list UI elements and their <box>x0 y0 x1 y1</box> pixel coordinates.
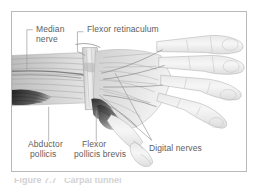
label-digital-nerves: Digital nerves <box>149 144 202 154</box>
label-abductor-pollicis-line2: pollicis <box>30 150 56 160</box>
label-flexor-pollicis-brevis-line2: pollicis brevis <box>74 150 126 160</box>
figure-root: Median nerve Flexor retinaculum Abductor… <box>0 0 258 188</box>
figure-caption-strip: Figure 7.7 Carpal tunnel <box>14 178 214 188</box>
label-median-nerve-line2: nerve <box>36 35 58 45</box>
label-layer: Median nerve Flexor retinaculum Abductor… <box>12 12 246 171</box>
figure-caption-text: Figure 7.7 Carpal tunnel <box>14 178 122 185</box>
figure-frame: Median nerve Flexor retinaculum Abductor… <box>11 11 247 172</box>
label-flexor-retinaculum: Flexor retinaculum <box>87 25 159 35</box>
